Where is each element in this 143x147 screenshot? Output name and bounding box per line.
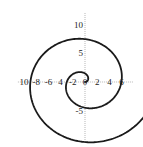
spiral-curve [30, 39, 143, 143]
x-tick-label: -8 [32, 77, 40, 87]
x-tick-label: -2 [69, 77, 77, 87]
x-tick-label: 10 [20, 77, 30, 87]
spiral-plot: 10-8-64-20246 105-5 [0, 0, 143, 147]
y-tick-labels: 105-5 [74, 20, 84, 116]
y-tick-label: 5 [79, 48, 84, 58]
x-tick-label: 2 [95, 77, 100, 87]
y-tick-label: 10 [74, 20, 84, 30]
x-tick-label: -6 [45, 77, 53, 87]
x-tick-labels: 10-8-64-20246 [20, 77, 125, 87]
x-tick-label: 4 [107, 77, 112, 87]
x-tick-label: 4 [58, 77, 63, 87]
